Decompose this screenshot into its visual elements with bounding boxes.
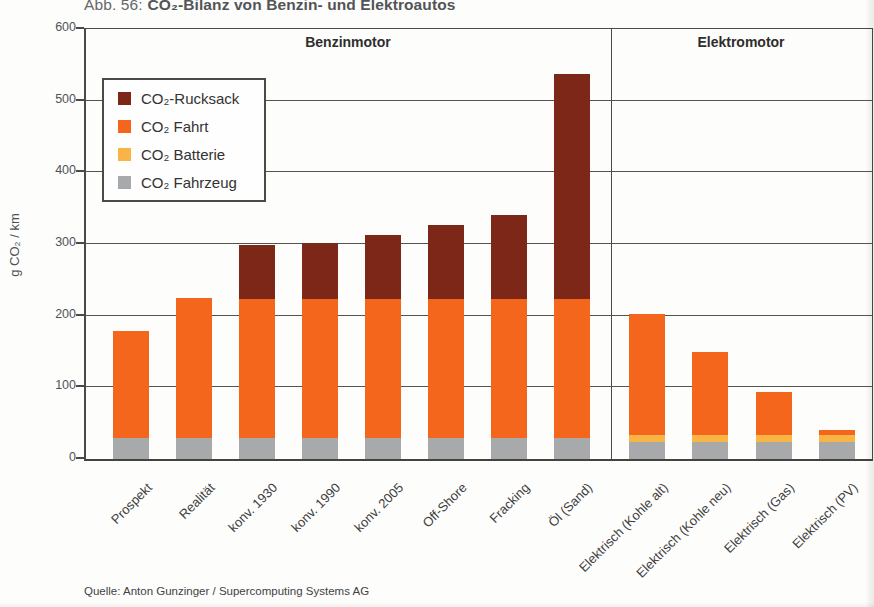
bar-l-sand-co-fahrzeug <box>554 438 590 460</box>
bar-konv-2005-co-fahrzeug <box>365 438 401 460</box>
y-tick-label-0: 0 <box>36 450 76 464</box>
y-tick-mark-300 <box>76 242 84 244</box>
y-tick-label-100: 100 <box>36 378 76 392</box>
bar-realit-t-co-fahrt <box>176 298 212 437</box>
section-divider-line <box>611 29 612 459</box>
y-tick-label-600: 600 <box>36 20 76 34</box>
x-label-elektrisch-pv: Elektrisch (PV) <box>789 480 860 551</box>
bar-konv-1990-co-rucksack <box>302 243 338 299</box>
y-tick-label-500: 500 <box>36 92 76 106</box>
bar-konv-1990-co-fahrt <box>302 299 338 437</box>
figure-canvas: Abb. 56:CO₂-Bilanz von Benzin- und Elekt… <box>0 0 874 607</box>
bar-l-sand-co-fahrt <box>554 299 590 437</box>
x-label-konv-2005: konv. 2005 <box>352 480 407 535</box>
legend-label-co-fahrzeug: CO₂ Fahrzeug <box>141 174 237 191</box>
x-label-konv-1930: konv. 1930 <box>226 480 281 535</box>
x-label-l-sand: Öl (Sand) <box>546 480 596 530</box>
bar-elektrisch-kohle-alt-co-batterie <box>629 435 665 441</box>
legend: CO₂-RucksackCO₂ FahrtCO₂ BatterieCO₂ Fah… <box>102 78 266 202</box>
x-label-fracking: Fracking <box>487 480 533 526</box>
figure-title-text: CO₂-Bilanz von Benzin- und Elektroautos <box>148 0 456 13</box>
bar-prospekt-co-fahrzeug <box>113 438 149 460</box>
y-tick-mark-0 <box>76 457 84 459</box>
bar-konv-2005-co-fahrt <box>365 299 401 437</box>
bar-off-shore-co-fahrzeug <box>428 438 464 460</box>
y-tick-mark-600 <box>76 27 84 29</box>
bar-elektrisch-gas-co-fahrt <box>756 392 792 435</box>
bar-elektrisch-kohle-alt-co-fahrt <box>629 314 665 435</box>
source-caption: Quelle: Anton Gunzinger / Supercomputing… <box>84 585 369 597</box>
y-tick-mark-400 <box>76 170 84 172</box>
legend-item-co-fahrt: CO₂ Fahrt <box>118 118 264 135</box>
x-label-off-shore: Off-Shore <box>419 480 469 530</box>
bar-elektrisch-pv-co-fahrt <box>819 430 855 436</box>
y-tick-label-400: 400 <box>36 163 76 177</box>
bar-konv-2005-co-rucksack <box>365 235 401 299</box>
bar-elektrisch-kohle-neu-co-fahrt <box>692 352 728 435</box>
bar-l-sand-co-rucksack <box>554 74 590 299</box>
gridline-300 <box>86 243 872 244</box>
bar-elektrisch-kohle-neu-co-batterie <box>692 435 728 441</box>
bar-elektrisch-kohle-alt-co-fahrzeug <box>629 442 665 459</box>
bar-fracking-co-rucksack <box>491 215 527 299</box>
bar-elektrisch-kohle-neu-co-fahrzeug <box>692 442 728 459</box>
legend-swatch-co-fahrzeug <box>118 176 131 189</box>
y-axis-title: g CO₂ / km <box>7 213 22 277</box>
x-label-realit-t: Realität <box>176 480 218 522</box>
y-tick-mark-500 <box>76 99 84 101</box>
bar-elektrisch-pv-co-fahrzeug <box>819 442 855 459</box>
y-tick-mark-200 <box>76 314 84 316</box>
bar-konv-1930-co-fahrt <box>239 299 275 437</box>
bar-konv-1990-co-fahrzeug <box>302 438 338 460</box>
x-label-prospekt: Prospekt <box>108 480 155 527</box>
figure-title: Abb. 56:CO₂-Bilanz von Benzin- und Elekt… <box>84 0 455 14</box>
x-label-konv-1990: konv. 1990 <box>289 480 344 535</box>
section-header-benzinmotor: Benzinmotor <box>305 34 391 50</box>
bar-off-shore-co-rucksack <box>428 225 464 299</box>
bar-elektrisch-gas-co-fahrzeug <box>756 442 792 459</box>
bar-realit-t-co-fahrzeug <box>176 438 212 460</box>
y-tick-label-200: 200 <box>36 307 76 321</box>
y-tick-mark-100 <box>76 385 84 387</box>
legend-item-co-batterie: CO₂ Batterie <box>118 146 264 163</box>
legend-swatch-co-batterie <box>118 148 131 161</box>
legend-label-co-batterie: CO₂ Batterie <box>141 146 225 163</box>
bar-fracking-co-fahrt <box>491 299 527 437</box>
legend-label-co-fahrt: CO₂ Fahrt <box>141 118 209 135</box>
legend-swatch-co-fahrt <box>118 120 131 133</box>
bar-elektrisch-gas-co-batterie <box>756 435 792 441</box>
bar-fracking-co-fahrzeug <box>491 438 527 460</box>
legend-item-co-fahrzeug: CO₂ Fahrzeug <box>118 174 264 191</box>
legend-swatch-co-rucksack <box>118 92 131 105</box>
bar-konv-1930-co-fahrzeug <box>239 438 275 460</box>
legend-label-co-rucksack: CO₂-Rucksack <box>141 90 239 107</box>
bar-prospekt-co-fahrt <box>113 331 149 437</box>
bar-konv-1930-co-rucksack <box>239 245 275 299</box>
bar-elektrisch-pv-co-batterie <box>819 435 855 441</box>
section-header-elektromotor: Elektromotor <box>697 34 784 50</box>
y-tick-label-300: 300 <box>36 235 76 249</box>
bar-off-shore-co-fahrt <box>428 299 464 437</box>
plot-area: Benzinmotor Elektromotor CO₂-RucksackCO₂… <box>84 28 873 461</box>
figure-number: Abb. 56: <box>84 0 143 13</box>
legend-item-co-rucksack: CO₂-Rucksack <box>118 90 264 107</box>
